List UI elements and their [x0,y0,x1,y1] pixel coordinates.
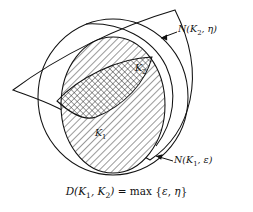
formula-set-close: } [181,185,188,197]
formula-set-open: { [152,185,162,197]
label-outer-quadrilateral: N(K2, η) [178,24,217,37]
label-k2-sub: 2 [142,68,146,76]
label-K1: K1 [95,128,106,141]
caption-formula: D(K1, K2) = max {ε, η} [0,186,253,200]
label-k1-sub: 1 [102,133,106,141]
label-n-k2-close: ) [213,23,217,34]
label-n-k1-close: ) [209,154,213,165]
label-outer-ellipse: N(K1, ε) [174,155,212,168]
label-K2: K2 [135,63,146,76]
formula-max: max [130,185,152,197]
formula-comma: , [91,185,98,197]
formula-d: D [66,185,74,197]
figure-root: N(K2, η) N(K1, ε) K2 K1 D(K1, K2) = max … [0,0,253,212]
arrow-to-outer-ellipse-icon [156,154,173,161]
formula-k1-base: K [78,185,86,197]
formula-equals: = [114,185,129,197]
